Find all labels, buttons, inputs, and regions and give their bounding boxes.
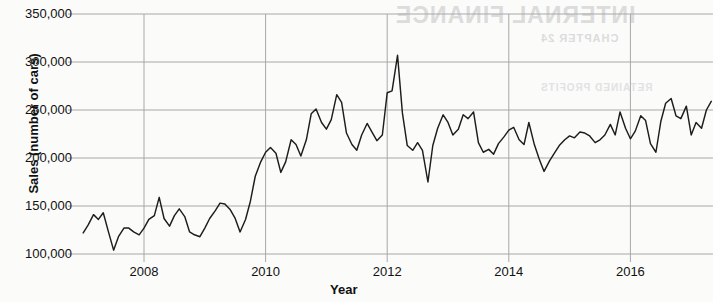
x-tick-label: 2008 xyxy=(114,264,174,279)
y-tick-label: 300,000 xyxy=(0,54,72,69)
y-tick-label: 150,000 xyxy=(0,198,72,213)
y-tick-label: 250,000 xyxy=(0,102,72,117)
tick-marks xyxy=(68,14,80,254)
x-tick-label: 2014 xyxy=(479,264,539,279)
grid-lines xyxy=(80,14,713,262)
y-tick-label: 350,000 xyxy=(0,6,72,21)
x-tick-label: 2010 xyxy=(236,264,296,279)
chart-plot-area xyxy=(0,0,713,302)
y-tick-label: 100,000 xyxy=(0,246,72,261)
y-tick-label: 200,000 xyxy=(0,150,72,165)
x-axis-title: Year xyxy=(330,282,357,297)
x-tick-label: 2012 xyxy=(357,264,417,279)
x-tick-label: 2016 xyxy=(600,264,660,279)
series-line-sales xyxy=(83,55,711,250)
chart-figure: INTERNAL FINANCE CHAPTER 24 RETAINED PRO… xyxy=(0,0,713,302)
